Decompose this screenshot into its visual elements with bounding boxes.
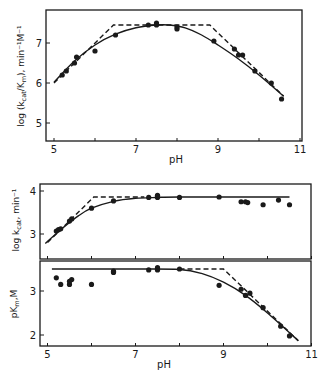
data-point	[58, 282, 63, 287]
data-point	[279, 96, 284, 101]
data-point	[177, 195, 182, 200]
panel-frame	[40, 261, 311, 346]
y-axis-label: log kcat, min⁻¹	[11, 188, 23, 251]
x-tick-label: 5	[51, 144, 57, 155]
data-point	[287, 333, 292, 338]
asymptote-line	[54, 25, 284, 96]
y-axis-ticks: 23	[30, 286, 44, 341]
data-point	[89, 206, 94, 211]
data-point	[64, 68, 69, 73]
x-tick-label: 7	[132, 349, 138, 360]
data-point	[113, 32, 118, 37]
data-point	[69, 277, 74, 282]
data-point	[243, 293, 248, 298]
x-tick-label: 9	[220, 349, 226, 360]
data-point	[69, 216, 74, 221]
asymptote-line	[48, 197, 145, 243]
data-point	[261, 202, 266, 207]
data-point	[146, 267, 151, 272]
data-point	[60, 72, 65, 77]
panel-pkm: 57911 23 pH pKm,M	[9, 261, 318, 370]
data-point	[111, 198, 116, 203]
x-tick-label: 9	[215, 144, 221, 155]
data-point	[111, 269, 116, 274]
y-tick-label: 7	[36, 38, 42, 49]
y-axis-ticks: 567	[36, 38, 50, 129]
data-point	[72, 60, 77, 65]
panel-log-kcat: 34 log kcat, min⁻¹	[11, 184, 312, 259]
data-point	[252, 68, 257, 73]
y-axis-label: log (kcat/Km), min⁻¹M⁻¹	[16, 25, 28, 127]
data-point	[269, 80, 274, 85]
data-point	[261, 305, 266, 310]
y-tick-label: 3	[30, 229, 36, 240]
x-tick-label: 7	[133, 144, 139, 155]
data-point	[92, 48, 97, 53]
data-point	[276, 197, 281, 202]
data-point	[211, 38, 216, 43]
panel-frame	[40, 184, 311, 259]
y-axis-ticks: 34	[30, 186, 44, 240]
y-tick-label: 4	[30, 186, 36, 197]
data-points	[54, 265, 292, 338]
data-point	[146, 22, 151, 27]
data-point	[217, 194, 222, 199]
curves	[52, 269, 298, 341]
x-tick-label: 11	[294, 144, 307, 155]
data-point	[177, 266, 182, 271]
ph-profile-chart: 57911 567 pH log (kcat/Km), min⁻¹M⁻¹ 34 …	[0, 0, 322, 373]
y-tick-label: 2	[30, 330, 36, 341]
ph-profile-figure: 57911 567 pH log (kcat/Km), min⁻¹M⁻¹ 34 …	[0, 0, 322, 373]
fit-curve	[45, 197, 289, 243]
data-points	[54, 193, 292, 234]
panel-kcat-over-km: 57911 567 pH log (kcat/Km), min⁻¹M⁻¹	[16, 10, 306, 165]
data-point	[240, 52, 245, 57]
asymptote-line	[180, 269, 299, 341]
y-tick-label: 6	[36, 78, 42, 89]
data-point	[74, 54, 79, 59]
data-point	[245, 200, 250, 205]
y-tick-label: 5	[36, 118, 42, 129]
data-point	[155, 265, 160, 270]
data-point	[287, 202, 292, 207]
x-tick-label: 11	[305, 349, 318, 360]
y-axis-label: pKm,M	[9, 290, 21, 319]
data-point	[232, 46, 237, 51]
data-point	[217, 283, 222, 288]
fit-curve	[54, 25, 284, 97]
data-point	[174, 24, 179, 29]
curves	[45, 197, 289, 243]
data-point	[247, 291, 252, 296]
x-tick-label: 5	[44, 349, 50, 360]
data-point	[278, 324, 283, 329]
data-point	[54, 275, 59, 280]
data-point	[89, 282, 94, 287]
x-axis-label: pH	[157, 359, 171, 370]
data-points	[60, 20, 285, 101]
data-point	[154, 20, 159, 25]
panel-frame	[46, 10, 302, 141]
data-point	[239, 287, 244, 292]
y-tick-label: 3	[30, 286, 36, 297]
data-point	[146, 195, 151, 200]
x-axis-label: pH	[169, 154, 183, 165]
data-point	[58, 226, 63, 231]
curves	[54, 25, 284, 97]
data-point	[155, 193, 160, 198]
